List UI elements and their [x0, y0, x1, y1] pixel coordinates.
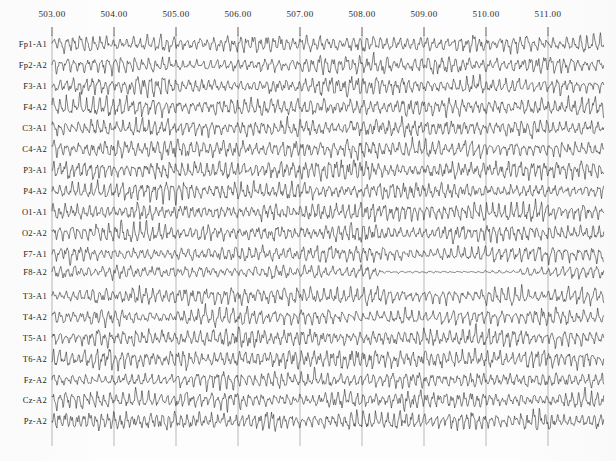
eeg-trace-o1-a1: [52, 199, 604, 222]
eeg-trace-t4-a2: [52, 303, 604, 328]
eeg-trace-f3-a1: [52, 74, 604, 98]
eeg-trace-fp2-a2: [52, 52, 604, 76]
eeg-trace-o2-a2: [52, 220, 604, 244]
eeg-trace-cz-a2: [52, 387, 604, 412]
eeg-trace-svg: [0, 0, 616, 461]
eeg-trace-f7-a1: [52, 245, 604, 266]
eeg-trace-c3-a1: [52, 116, 604, 139]
eeg-trace-t3-a1: [52, 284, 604, 306]
eeg-trace-pz-a2: [52, 408, 604, 431]
eeg-trace-fp1-a1: [52, 33, 604, 55]
eeg-trace-f4-a2: [52, 92, 604, 118]
eeg-chart-page: 503.00504.00505.00506.00507.00508.00509.…: [0, 0, 616, 461]
eeg-trace-f8-a2: [52, 265, 604, 281]
eeg-trace-p4-a2: [52, 180, 604, 206]
eeg-trace-t5-a1: [52, 323, 604, 348]
eeg-trace-c4-a2: [52, 137, 604, 161]
eeg-trace-fz-a2: [52, 367, 604, 392]
eeg-trace-t6-a2: [52, 348, 604, 371]
eeg-trace-p3-a1: [52, 160, 604, 182]
eeg-trace-area: [0, 0, 616, 461]
